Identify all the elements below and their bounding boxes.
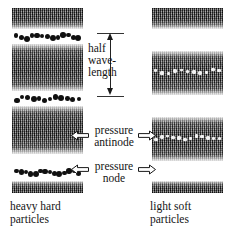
heavy-particle-chain: [12, 92, 83, 104]
light-soft-particles-caption: light soft particles: [150, 200, 191, 226]
pressure-node-label: pressure node: [89, 160, 139, 184]
heavy-particle: [65, 96, 70, 101]
heavy-particle: [60, 32, 66, 38]
double-arrow-vertical-icon: [107, 88, 113, 95]
heavy-particle: [77, 97, 81, 101]
granular-band: [12, 44, 83, 91]
light-particle: [195, 134, 198, 137]
arrow-left-hollow-icon: [71, 164, 89, 175]
arrow-left-hollow-icon: [71, 130, 89, 141]
heavy-particle: [58, 95, 64, 101]
heavy-particle: [50, 35, 56, 41]
pressure-node-line-1: pressure: [89, 160, 139, 172]
heavy-particle: [31, 96, 37, 102]
arrow-right-hollow-icon: [138, 164, 156, 175]
light-particle: [173, 69, 177, 73]
heavy-particle: [25, 95, 30, 100]
granular-band: [12, 8, 83, 29]
heavy-particle: [14, 98, 20, 104]
light-particle-chain: [152, 66, 223, 78]
dimension-tick-bottom: [97, 96, 124, 97]
light-particle: [192, 70, 196, 74]
light-particle: [171, 136, 174, 139]
caption-right-line-1: light soft: [150, 200, 191, 213]
heavy-particle: [70, 97, 76, 103]
double-arrow-vertical-icon: [107, 33, 113, 40]
light-particle: [177, 136, 181, 140]
light-particle: [167, 72, 171, 76]
figure-canvas: half wave- length pressure antinode pres…: [0, 0, 227, 229]
light-particle: [160, 71, 163, 74]
heavy-particle: [75, 35, 81, 41]
half-wavelength-line-1: half: [88, 42, 138, 54]
light-particle: [200, 135, 204, 139]
heavy-hard-particles-caption: heavy hard particles: [10, 200, 61, 226]
pressure-antinode-line-2: antinode: [89, 136, 139, 148]
granular-band: [12, 181, 83, 193]
caption-right-line-2: particles: [150, 213, 191, 226]
light-particle: [189, 137, 192, 140]
light-particle: [205, 71, 208, 74]
heavy-particle-chain: [12, 30, 83, 42]
light-particle: [154, 69, 157, 72]
light-particle: [183, 138, 187, 142]
heavy-particle: [20, 95, 24, 99]
granular-band: [152, 8, 223, 29]
light-particle: [180, 69, 183, 72]
light-particle: [160, 135, 164, 139]
half-wavelength-line-3: length: [88, 66, 138, 78]
caption-left-line-1: heavy hard: [10, 200, 61, 213]
heavy-particle: [24, 170, 28, 174]
half-wavelength-label: half wave- length: [88, 42, 138, 79]
light-particle: [198, 71, 202, 75]
light-particle: [166, 135, 169, 138]
light-particle: [218, 137, 221, 140]
heavy-particle: [66, 33, 70, 37]
heavy-particle: [14, 169, 19, 174]
heavy-particle: [14, 33, 18, 37]
light-particle: [211, 68, 214, 71]
heavy-particle: [37, 96, 42, 101]
light-particle-chain: [152, 132, 223, 144]
light-particle: [154, 138, 158, 142]
heavy-particle: [42, 98, 48, 104]
light-particle: [212, 137, 215, 140]
pressure-node-line-2: node: [89, 172, 139, 184]
granular-band: [152, 181, 223, 193]
heavy-particle: [48, 97, 52, 101]
pressure-antinode-label: pressure antinode: [89, 124, 139, 148]
pressure-antinode-line-1: pressure: [89, 124, 139, 136]
heavy-particle: [40, 34, 44, 38]
half-wavelength-line-2: wave-: [88, 54, 138, 66]
light-particle: [186, 70, 189, 73]
light-particle: [217, 69, 221, 73]
caption-left-line-2: particles: [10, 213, 61, 226]
light-particle: [206, 136, 210, 140]
